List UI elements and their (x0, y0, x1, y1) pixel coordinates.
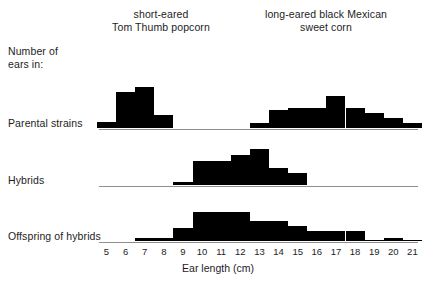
histogram-bar (288, 226, 307, 241)
histogram-bar (212, 212, 231, 241)
histogram-bar (346, 231, 365, 241)
x-tick-label: 18 (347, 246, 363, 257)
histogram-bar (231, 212, 250, 241)
histogram-bar (231, 155, 250, 186)
x-tick-label: 21 (404, 246, 420, 257)
histogram-bar (307, 231, 326, 241)
row-label-hybrids: Hybrids (8, 174, 44, 187)
x-tick-label: 13 (251, 246, 267, 257)
baseline-parental-strains (99, 129, 418, 130)
corn-ear-length-figure: short-eared Tom Thumb popcorn long-eared… (0, 0, 436, 284)
panel-title-sweet-corn: long-eared black Mexican sweet corn (246, 8, 406, 34)
x-tick-label: 19 (366, 246, 382, 257)
x-tick-label: 16 (309, 246, 325, 257)
histogram-bar (365, 113, 384, 128)
row-label-offspring-of-hybrids: Offspring of hybrids (8, 230, 101, 243)
histogram-bar (326, 96, 345, 129)
histogram-bar (307, 108, 326, 129)
histogram-bar (384, 118, 403, 128)
panel-title-popcorn: short-eared Tom Thumb popcorn (96, 8, 226, 34)
baseline-hybrids (99, 186, 418, 187)
x-tick-label: 15 (290, 246, 306, 257)
histogram-bar (135, 238, 154, 241)
x-tick-label: 20 (385, 246, 401, 257)
histogram-bar (288, 173, 307, 185)
histogram-bar (250, 149, 269, 185)
row-label-parental-strains: Parental strains (8, 117, 83, 130)
histogram-bar (154, 238, 173, 241)
histogram-bar (288, 108, 307, 129)
x-tick-label: 14 (271, 246, 287, 257)
x-tick-label: 9 (175, 246, 191, 257)
histogram-bar (193, 161, 212, 185)
histogram-bar (154, 115, 173, 129)
histogram-bar (193, 212, 212, 241)
x-axis-title: Ear length (cm) (0, 262, 436, 274)
histogram-bar (173, 228, 192, 242)
histogram-bar (326, 231, 345, 241)
histogram-bar (403, 123, 422, 128)
baseline-offspring-of-hybrids (99, 242, 418, 243)
histogram-bar (135, 87, 154, 128)
histogram-bar (250, 221, 269, 242)
histogram-bar (173, 182, 192, 185)
x-tick-label: 8 (156, 246, 172, 257)
histogram-bar (212, 161, 231, 185)
histogram-bar (269, 168, 288, 185)
histogram-bar (97, 122, 116, 129)
x-tick-label: 6 (118, 246, 134, 257)
histogram-bar (116, 92, 135, 128)
histogram-bar (384, 238, 403, 241)
histogram-bar (346, 108, 365, 129)
x-tick-label: 10 (194, 246, 210, 257)
x-tick-label: 17 (328, 246, 344, 257)
x-tick-label: 5 (99, 246, 115, 257)
histogram-bar (269, 221, 288, 242)
x-tick-label: 11 (213, 246, 229, 257)
y-axis-caption: Number of ears in: (8, 45, 58, 71)
x-tick-label: 7 (137, 246, 153, 257)
x-tick-label: 12 (232, 246, 248, 257)
histogram-bar (365, 240, 384, 242)
histogram-bar (269, 110, 288, 129)
histogram-bar (250, 123, 269, 128)
histogram-bar (403, 240, 422, 242)
